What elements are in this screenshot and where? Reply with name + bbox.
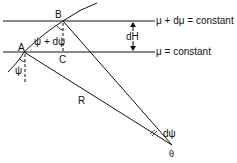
point-A-label: A [18,42,25,53]
dh-arrow-up-icon [130,22,136,27]
radius-line-A [24,52,172,145]
radius-label: R [78,95,85,106]
dpsi-label: dψ [163,128,176,139]
point-B-label: B [55,9,62,20]
angle-psi-plus-dpsi-label: ψ + dψ [34,36,65,47]
radius-line-B [63,21,172,145]
upper-surface-label: μ + dμ = constant [156,15,234,26]
dh-label: dH [126,31,139,42]
point-C-label: C [59,54,66,65]
angle-arc-A [19,58,25,62]
theta-label: θ [169,149,174,159]
lower-surface-label: μ = constant [156,46,211,57]
angle-psi-label: ψ [15,65,22,76]
ray-geometry-diagram: A B C ψ + dψ ψ dH μ + dμ = constant μ = … [0,0,237,163]
angle-arc-B [57,26,63,30]
dh-arrow-down-icon [130,46,136,51]
